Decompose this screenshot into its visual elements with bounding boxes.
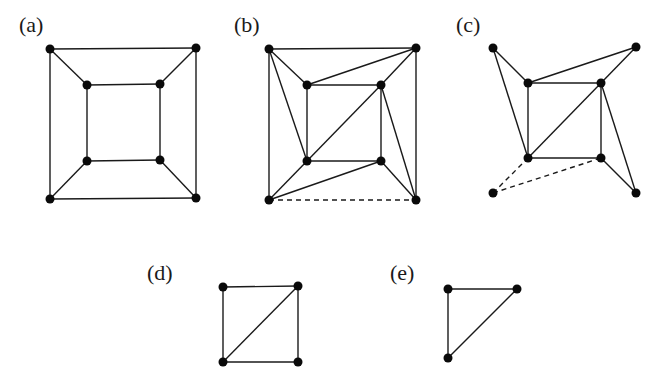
vertex-node	[412, 44, 421, 53]
edge	[223, 286, 298, 362]
vertex-node	[597, 154, 606, 163]
vertex-node	[632, 189, 641, 198]
edge	[50, 198, 196, 199]
edge	[528, 47, 636, 83]
graph-panel-e	[444, 285, 522, 363]
edge	[160, 48, 196, 84]
edge	[381, 85, 416, 200]
vertex-node	[192, 194, 201, 203]
vertex-node	[294, 282, 303, 291]
edge	[160, 160, 196, 198]
vertex-node	[303, 157, 312, 166]
vertex-node	[156, 156, 165, 165]
graph-panel-a	[46, 44, 201, 204]
vertex-node	[489, 189, 498, 198]
vertex-node	[83, 81, 92, 90]
edge	[307, 48, 416, 85]
vertex-node	[83, 157, 92, 166]
vertex-node	[444, 285, 453, 294]
vertex-node	[192, 44, 201, 53]
edge	[269, 49, 307, 161]
vertex-node	[46, 195, 55, 204]
edge	[87, 160, 160, 161]
edge	[223, 286, 298, 287]
edge	[269, 48, 416, 49]
edge	[269, 161, 307, 200]
vertex-node	[513, 285, 522, 294]
edge	[601, 83, 636, 193]
panel-label-d: (d)	[147, 262, 173, 284]
edge	[307, 85, 381, 161]
edge	[448, 289, 517, 358]
vertex-node	[597, 79, 606, 88]
dashed-edge	[493, 158, 601, 193]
vertex-node	[265, 45, 274, 54]
vertex-node	[632, 43, 641, 52]
graph-figure	[0, 0, 667, 387]
vertex-node	[524, 79, 533, 88]
vertex-node	[377, 81, 386, 90]
graph-panel-d	[219, 282, 303, 367]
edge	[50, 161, 87, 199]
edge	[528, 83, 601, 158]
vertex-node	[412, 196, 421, 205]
vertex-node	[524, 154, 533, 163]
panel-label-a: (a)	[19, 14, 43, 36]
vertex-node	[156, 80, 165, 89]
edge	[269, 161, 381, 200]
vertex-node	[219, 358, 228, 367]
graph-panel-c	[489, 43, 641, 198]
vertex-node	[265, 196, 274, 205]
vertex-node	[303, 81, 312, 90]
graph-panel-b	[265, 44, 421, 205]
vertex-node	[294, 358, 303, 367]
vertex-node	[219, 283, 228, 292]
vertex-node	[46, 45, 55, 54]
edge	[87, 84, 160, 85]
vertex-node	[444, 354, 453, 363]
panel-label-e: (e)	[390, 262, 414, 284]
panel-label-b: (b)	[234, 14, 260, 36]
edge	[50, 49, 87, 85]
vertex-node	[377, 157, 386, 166]
edge	[493, 48, 528, 158]
edge	[50, 48, 196, 49]
vertex-node	[489, 44, 498, 53]
panel-label-c: (c)	[456, 14, 480, 36]
